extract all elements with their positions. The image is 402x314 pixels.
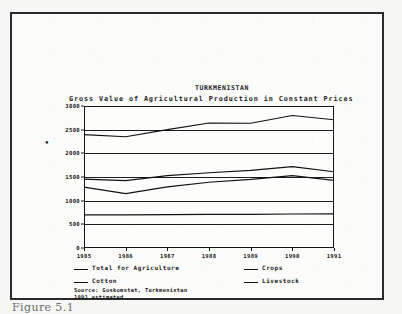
- legend: Total for AgricultureCropsCottonLivestoc…: [74, 264, 374, 288]
- y-tick-label: 1500: [65, 174, 80, 180]
- legend-label: Cotton: [92, 277, 117, 284]
- scanned-page: TURKMENISTAN Gross Value of Agricultural…: [0, 0, 402, 314]
- x-tick-label: 1985: [77, 253, 92, 259]
- source-note: Source: Goskomstat, Turkmenistan 1991 es…: [74, 287, 187, 301]
- x-tick-mark: [84, 248, 85, 251]
- x-tick-mark: [251, 248, 252, 251]
- y-tick-label: 1000: [65, 198, 80, 204]
- legend-label: Livestock: [262, 277, 299, 284]
- y-axis-label: ▪: [45, 138, 49, 145]
- x-tick-label: 1988: [202, 253, 217, 259]
- y-tick-label: 3000: [65, 103, 80, 109]
- series-lines: [84, 106, 334, 248]
- chart-subtitle: Gross Value of Agricultural Production i…: [69, 95, 354, 103]
- x-tick-label: 1991: [327, 253, 342, 259]
- x-tick-mark: [292, 248, 293, 251]
- y-tick-label: 0: [76, 245, 80, 251]
- x-tick-label: 1987: [160, 253, 175, 259]
- figure-caption: Figure 5.1: [12, 301, 192, 313]
- x-tick-mark: [334, 248, 335, 251]
- x-tick-mark: [209, 248, 210, 251]
- legend-line-swatch: [244, 282, 258, 283]
- y-tick-label: 2000: [65, 150, 80, 156]
- legend-item: Crops: [244, 264, 283, 271]
- x-tick-label: 1989: [243, 253, 258, 259]
- legend-line-swatch: [74, 282, 88, 283]
- legend-label: Total for Agriculture: [92, 264, 179, 271]
- legend-item: Livestock: [244, 277, 299, 284]
- plot-area: 050010001500200025003000 198519861987198…: [84, 106, 334, 248]
- x-tick-mark: [126, 248, 127, 251]
- x-tick-mark: [167, 248, 168, 251]
- x-tick-label: 1986: [118, 253, 133, 259]
- legend-line-swatch: [74, 269, 88, 270]
- figure-border: TURKMENISTAN Gross Value of Agricultural…: [10, 12, 384, 300]
- legend-label: Crops: [262, 264, 283, 271]
- series-line: [84, 167, 334, 181]
- x-tick-label: 1990: [285, 253, 300, 259]
- series-line: [84, 176, 334, 194]
- source-line-1: Source: Goskomstat, Turkmenistan: [74, 287, 187, 294]
- legend-item: Cotton: [74, 277, 117, 284]
- legend-item: Total for Agriculture: [74, 264, 179, 271]
- series-line: [84, 115, 334, 136]
- y-tick-label: 500: [69, 221, 80, 227]
- legend-line-swatch: [244, 269, 258, 270]
- chart-title: TURKMENISTAN: [21, 84, 402, 92]
- source-line-2: 1991 estimated: [74, 294, 187, 301]
- series-line: [84, 214, 334, 215]
- y-tick-label: 2500: [65, 127, 80, 133]
